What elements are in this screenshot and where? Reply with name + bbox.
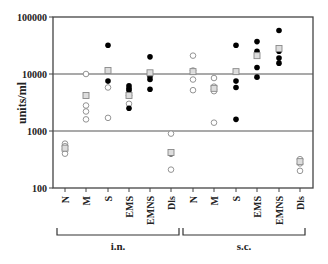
filled-circle-marker bbox=[233, 78, 239, 84]
filled-circle-marker bbox=[233, 85, 239, 91]
category-points bbox=[147, 54, 153, 92]
mean-square-marker bbox=[190, 69, 196, 75]
group-bracket-in: i.n. bbox=[57, 228, 179, 252]
open-circle-marker bbox=[211, 75, 217, 81]
category-points bbox=[297, 156, 303, 173]
filled-circle-marker bbox=[276, 55, 282, 61]
scatter-chart: 100000100001000100 units/ml NMSEMSEMNSDl… bbox=[0, 0, 328, 264]
filled-circle-marker bbox=[276, 28, 282, 34]
open-circle-marker bbox=[190, 77, 196, 83]
y-tick-label: 10000 bbox=[22, 69, 47, 80]
filled-circle-marker bbox=[254, 39, 260, 45]
filled-circle-marker bbox=[105, 42, 111, 48]
filled-circle-marker bbox=[105, 78, 111, 84]
mean-square-marker bbox=[62, 145, 68, 151]
mean-square-marker bbox=[254, 53, 260, 59]
mean-square-marker bbox=[276, 46, 282, 52]
x-category-label: EMNS bbox=[274, 196, 285, 225]
category-points bbox=[168, 131, 174, 173]
x-axis: NMSEMSEMNSDlsNMSEMSEMNSDls bbox=[60, 188, 306, 225]
data-points bbox=[62, 28, 303, 174]
category-points bbox=[62, 141, 68, 157]
filled-circle-marker bbox=[254, 74, 260, 80]
x-category-label: N bbox=[188, 195, 199, 203]
open-circle-marker bbox=[105, 115, 111, 121]
x-category-label: EMNS bbox=[145, 196, 156, 225]
filled-circle-marker bbox=[276, 60, 282, 66]
mean-square-marker bbox=[168, 149, 174, 155]
category-points bbox=[83, 71, 89, 122]
category-points bbox=[126, 83, 132, 111]
category-points bbox=[105, 42, 111, 120]
category-points bbox=[276, 28, 282, 66]
filled-circle-marker bbox=[147, 77, 153, 83]
open-circle-marker bbox=[83, 117, 89, 123]
x-category-label: EMS bbox=[124, 196, 135, 218]
open-circle-marker bbox=[62, 151, 68, 157]
filled-circle-marker bbox=[147, 54, 153, 60]
x-category-label: Dls bbox=[166, 196, 177, 210]
x-category-label: N bbox=[60, 195, 71, 203]
group-label-sc: s.c. bbox=[237, 240, 252, 252]
x-category-label: EMS bbox=[252, 196, 263, 218]
mean-square-marker bbox=[211, 85, 217, 91]
mean-square-marker bbox=[126, 92, 132, 98]
category-points bbox=[190, 53, 196, 93]
x-category-label: M bbox=[81, 195, 92, 205]
open-circle-marker bbox=[168, 131, 174, 137]
open-circle-marker bbox=[105, 85, 111, 91]
filled-circle-marker bbox=[233, 117, 239, 123]
y-axis-label: units/ml bbox=[15, 81, 29, 124]
x-category-label: S bbox=[231, 196, 242, 202]
group-label-in: i.n. bbox=[111, 240, 126, 252]
category-points bbox=[233, 42, 239, 122]
mean-square-marker bbox=[233, 69, 239, 75]
open-circle-marker bbox=[297, 168, 303, 174]
filled-circle-marker bbox=[254, 65, 260, 71]
group-bracket-sc: s.c. bbox=[183, 228, 305, 252]
y-tick-label: 1000 bbox=[27, 126, 47, 137]
gridlines bbox=[53, 74, 313, 131]
x-category-label: Dls bbox=[295, 196, 306, 210]
open-circle-marker bbox=[83, 71, 89, 77]
plot-frame bbox=[53, 17, 313, 188]
open-circle-marker bbox=[83, 103, 89, 109]
y-tick-label: 100 bbox=[32, 183, 47, 194]
y-tick-label: 100000 bbox=[17, 12, 47, 23]
filled-circle-marker bbox=[126, 106, 132, 112]
mean-square-marker bbox=[83, 92, 89, 98]
x-category-label: M bbox=[209, 195, 220, 205]
x-category-label: S bbox=[103, 196, 114, 202]
open-circle-marker bbox=[168, 167, 174, 173]
category-points bbox=[211, 75, 217, 125]
mean-square-marker bbox=[147, 70, 153, 76]
open-circle-marker bbox=[83, 109, 89, 115]
filled-circle-marker bbox=[147, 86, 153, 92]
open-circle-marker bbox=[190, 87, 196, 93]
open-circle-marker bbox=[211, 120, 217, 126]
mean-square-marker bbox=[297, 159, 303, 165]
mean-square-marker bbox=[105, 68, 111, 74]
filled-circle-marker bbox=[233, 42, 239, 48]
open-circle-marker bbox=[190, 53, 196, 59]
